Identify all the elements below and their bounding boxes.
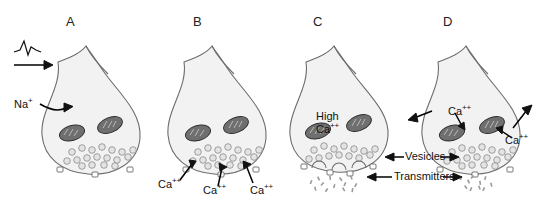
transmitters-label: Transmitters [394,171,455,183]
figure-canvas: A B C D [0,0,553,197]
shared-label-arrows [0,0,553,197]
vesicles-label: Vesicles [405,151,445,163]
